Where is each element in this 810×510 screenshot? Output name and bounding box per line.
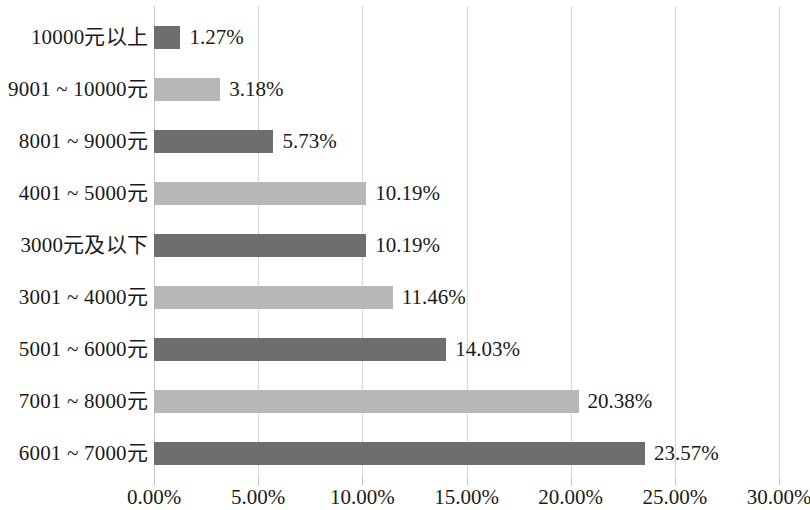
value-label: 3.18% <box>229 73 283 105</box>
bar-row: 9001 ~ 10000元3.18% <box>0 64 810 116</box>
bar <box>154 390 579 413</box>
category-label: 6001 ~ 7000元 <box>19 437 148 469</box>
bar-row: 4001 ~ 5000元10.19% <box>0 168 810 220</box>
category-label: 9001 ~ 10000元 <box>8 73 148 105</box>
bar-row: 3001 ~ 4000元11.46% <box>0 272 810 324</box>
category-label: 4001 ~ 5000元 <box>19 177 148 209</box>
bar-track <box>154 78 220 101</box>
bar-track <box>154 390 579 413</box>
category-label: 3000元及以下 <box>20 229 148 261</box>
bar-chart: 10000元以上1.27%9001 ~ 10000元3.18%8001 ~ 90… <box>0 0 810 510</box>
category-label: 7001 ~ 8000元 <box>19 385 148 417</box>
bar-track <box>154 286 393 309</box>
value-label: 20.38% <box>588 385 653 417</box>
value-label: 11.46% <box>402 281 466 313</box>
category-label: 10000元以上 <box>31 21 148 53</box>
bar <box>154 78 220 101</box>
bar-row: 8001 ~ 9000元5.73% <box>0 116 810 168</box>
value-label: 5.73% <box>282 125 336 157</box>
bar-row: 7001 ~ 8000元20.38% <box>0 376 810 428</box>
bar-track <box>154 182 366 205</box>
value-label: 10.19% <box>375 177 440 209</box>
bar-track <box>154 442 645 465</box>
value-label: 10.19% <box>375 229 440 261</box>
bar-row: 3000元及以下10.19% <box>0 220 810 272</box>
bar <box>154 26 180 49</box>
bar-track <box>154 26 180 49</box>
bar <box>154 182 366 205</box>
bar-track <box>154 130 273 153</box>
bar-track <box>154 234 366 257</box>
bar-row: 10000元以上1.27% <box>0 12 810 64</box>
value-label: 23.57% <box>654 437 719 469</box>
x-tick-label: 30.00% <box>747 484 810 510</box>
x-axis: 0.00%5.00%10.00%15.00%20.00%25.00%30.00% <box>0 478 810 510</box>
x-tick-label: 20.00% <box>538 484 603 510</box>
category-label: 3001 ~ 4000元 <box>19 281 148 313</box>
x-tick-label: 5.00% <box>231 484 285 510</box>
value-label: 14.03% <box>455 333 520 365</box>
x-tick-label: 0.00% <box>127 484 181 510</box>
bar <box>154 338 446 361</box>
bar-row: 5001 ~ 6000元14.03% <box>0 324 810 376</box>
bar-row: 6001 ~ 7000元23.57% <box>0 428 810 480</box>
category-label: 8001 ~ 9000元 <box>19 125 148 157</box>
bar-track <box>154 338 446 361</box>
bar <box>154 442 645 465</box>
x-tick-label: 15.00% <box>434 484 499 510</box>
bar <box>154 286 393 309</box>
x-tick-label: 10.00% <box>330 484 395 510</box>
x-tick-label: 25.00% <box>642 484 707 510</box>
bar <box>154 130 273 153</box>
value-label: 1.27% <box>189 21 243 53</box>
category-label: 5001 ~ 6000元 <box>19 333 148 365</box>
bar <box>154 234 366 257</box>
